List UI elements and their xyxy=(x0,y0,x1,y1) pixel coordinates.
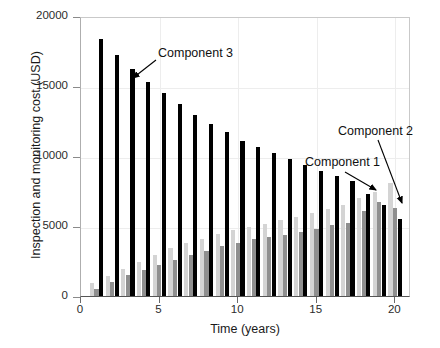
y-tick-mark xyxy=(73,227,80,228)
bar-component-2-year-10 xyxy=(236,243,240,296)
x-tick-label: 10 xyxy=(217,303,257,315)
bar-component-2-year-4 xyxy=(142,270,146,296)
bar-component-1-year-8 xyxy=(200,239,204,296)
annotation-component-3: Component 3 xyxy=(158,46,233,60)
bar-component-2-year-20 xyxy=(393,208,397,296)
bar-component-2-year-3 xyxy=(126,275,130,296)
bar-component-1-year-14 xyxy=(294,217,298,296)
bar-component-3-year-6 xyxy=(178,104,182,296)
bar-component-3-year-15 xyxy=(319,171,323,296)
bar-component-1-year-5 xyxy=(153,255,157,296)
bar-component-3-year-12 xyxy=(272,153,276,296)
bar-component-2-year-16 xyxy=(330,225,334,296)
bar-component-2-year-14 xyxy=(299,232,303,296)
bar-component-2-year-18 xyxy=(362,211,366,296)
bar-component-2-year-12 xyxy=(267,237,271,297)
bar-component-1-year-15 xyxy=(310,213,314,296)
bar-component-1-year-10 xyxy=(231,230,235,296)
x-tick-label: 20 xyxy=(374,303,414,315)
y-tick-label: 15000 xyxy=(0,80,68,92)
x-tick-label: 0 xyxy=(60,303,100,315)
bar-component-1-year-17 xyxy=(341,205,345,296)
annotation-component-1: Component 1 xyxy=(305,155,380,169)
bar-component-1-year-2 xyxy=(106,276,110,296)
bar-component-1-year-11 xyxy=(247,227,251,296)
bar-component-2-year-19 xyxy=(377,202,381,296)
bar-component-3-year-8 xyxy=(209,124,213,296)
bar-component-3-year-20 xyxy=(398,219,402,296)
bar-component-1-year-20 xyxy=(388,183,392,296)
bar-component-3-year-1 xyxy=(99,39,103,296)
bar-component-2-year-13 xyxy=(283,235,287,296)
bar-component-1-year-3 xyxy=(121,269,125,296)
y-tick-label: 5000 xyxy=(0,220,68,232)
bar-component-1-year-13 xyxy=(278,220,282,296)
bar-component-1-year-18 xyxy=(357,198,361,296)
bar-component-2-year-5 xyxy=(157,265,161,297)
bar-component-3-year-18 xyxy=(366,194,370,296)
bar-component-1-year-1 xyxy=(90,283,94,296)
bar-component-3-year-2 xyxy=(115,55,119,296)
bar-component-1-year-4 xyxy=(137,262,141,296)
bar-component-3-year-3 xyxy=(130,69,134,296)
bar-component-3-year-7 xyxy=(193,115,197,296)
y-tick-label: 10000 xyxy=(0,150,68,162)
bar-component-1-year-16 xyxy=(326,209,330,296)
bar-component-3-year-4 xyxy=(146,82,150,296)
bar-component-1-year-6 xyxy=(168,248,172,296)
bar-component-3-year-14 xyxy=(303,165,307,296)
bar-component-3-year-9 xyxy=(225,132,229,296)
bar-component-2-year-1 xyxy=(94,289,98,296)
annotation-component-2: Component 2 xyxy=(338,124,413,138)
y-tick-label: 20000 xyxy=(0,10,68,22)
y-tick-mark xyxy=(73,157,80,158)
y-tick-mark xyxy=(73,17,80,18)
bar-component-2-year-7 xyxy=(189,255,193,296)
bar-component-2-year-15 xyxy=(314,229,318,296)
y-tick-mark xyxy=(73,297,80,298)
bar-component-2-year-17 xyxy=(346,223,350,297)
bar-component-3-year-16 xyxy=(335,176,339,296)
bar-component-3-year-19 xyxy=(382,205,386,296)
bar-component-1-year-9 xyxy=(216,234,220,296)
bar-component-2-year-2 xyxy=(110,282,114,296)
y-tick-label: 0 xyxy=(0,290,68,302)
x-tick-label: 5 xyxy=(139,303,179,315)
bar-component-2-year-8 xyxy=(204,251,208,297)
x-tick-label: 15 xyxy=(296,303,336,315)
bar-component-3-year-5 xyxy=(162,93,166,296)
bar-component-3-year-17 xyxy=(350,181,354,297)
chart-container: Inspection and monitoring cost (USD) 050… xyxy=(0,0,440,348)
bar-component-1-year-7 xyxy=(184,243,188,296)
bar-component-3-year-13 xyxy=(288,159,292,296)
x-axis-title: Time (years) xyxy=(80,322,410,336)
bar-component-2-year-11 xyxy=(252,239,256,296)
bar-component-3-year-11 xyxy=(256,147,260,296)
y-tick-mark xyxy=(73,87,80,88)
bar-component-1-year-19 xyxy=(373,192,377,296)
bar-component-1-year-12 xyxy=(263,224,267,296)
bar-component-3-year-10 xyxy=(240,141,244,296)
bar-component-2-year-6 xyxy=(173,260,177,296)
bar-component-2-year-9 xyxy=(220,246,224,296)
